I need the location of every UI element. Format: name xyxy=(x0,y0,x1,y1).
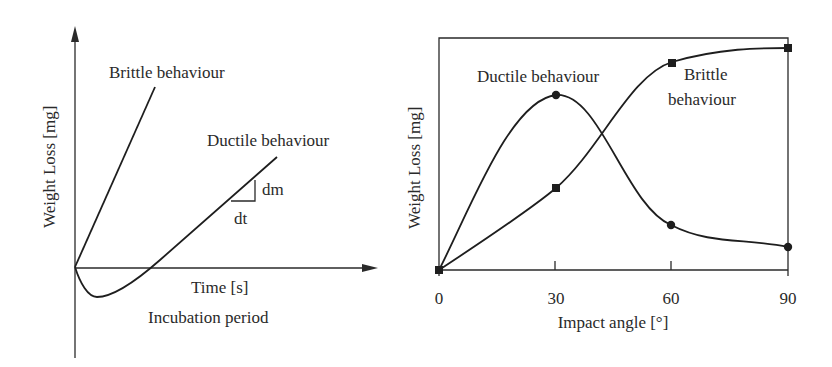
brittle-line xyxy=(75,87,155,267)
dm-label: dm xyxy=(262,180,284,199)
left-y-axis-label: Weight Loss [mg] xyxy=(40,106,59,228)
ductile-label: Ductile behaviour xyxy=(207,131,330,150)
x-tick-label-60: 60 xyxy=(663,289,680,308)
brittle-point-90 xyxy=(784,44,792,52)
right-ductile-label: Ductile behaviour xyxy=(477,67,600,86)
x-axis-arrow-icon xyxy=(362,264,378,272)
dt-label: dt xyxy=(234,209,248,228)
left-x-axis-label: Time [s] xyxy=(191,278,248,297)
right-brittle-label-line2: behaviour xyxy=(668,90,736,109)
left-chart: Brittle behaviour Ductile behaviour dm d… xyxy=(40,26,378,358)
incubation-label: Incubation period xyxy=(148,308,269,327)
figure: Brittle behaviour Ductile behaviour dm d… xyxy=(0,0,832,367)
right-chart: Ductile behaviour Brittle behaviour 0 30… xyxy=(405,38,797,332)
brittle-point-30 xyxy=(552,184,560,192)
ductile-point-30 xyxy=(552,91,560,99)
brittle-point-60 xyxy=(668,59,676,67)
x-tick-label-0: 0 xyxy=(435,289,444,308)
brittle-label: Brittle behaviour xyxy=(109,63,225,82)
x-tick-label-30: 30 xyxy=(548,289,565,308)
slope-triangle xyxy=(231,180,255,201)
ductile-point-60 xyxy=(667,221,675,229)
right-brittle-label-line1: Brittle xyxy=(684,65,727,84)
right-ductile-curve xyxy=(439,95,788,270)
right-y-axis-label: Weight Loss [mg] xyxy=(405,107,424,229)
origin-point xyxy=(435,266,443,274)
ductile-point-90 xyxy=(784,243,792,251)
x-tick-label-90: 90 xyxy=(780,289,797,308)
right-x-axis-label: Impact angle [°] xyxy=(558,313,669,332)
y-axis-arrow-icon xyxy=(71,26,79,42)
